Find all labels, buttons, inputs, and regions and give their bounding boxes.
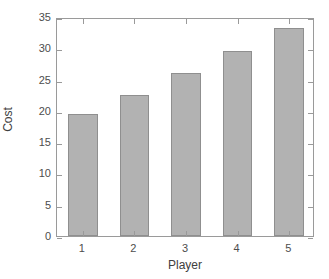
y-tick-mark (57, 175, 62, 176)
x-tick-label: 5 (285, 243, 291, 254)
x-tick-label: 4 (234, 243, 240, 254)
y-tick-mark-right (308, 238, 313, 239)
y-axis-title: Cost (2, 90, 15, 150)
x-axis-tick-labels: 12345 (56, 243, 314, 257)
y-tick-mark-right (308, 82, 313, 83)
y-tick-mark-right (308, 19, 313, 20)
bar-2 (120, 95, 149, 236)
y-tick-mark (57, 50, 62, 51)
y-axis-tick-labels: 05101520253035 (24, 18, 51, 237)
y-tick-mark (57, 207, 62, 208)
y-tick-mark-right (308, 113, 313, 114)
x-tick-mark (186, 231, 187, 236)
y-tick-label: 10 (39, 168, 51, 179)
y-tick-label: 30 (39, 43, 51, 54)
x-tick-mark (134, 231, 135, 236)
y-tick-label: 5 (45, 200, 51, 211)
y-tick-mark (57, 82, 62, 83)
y-tick-mark-right (308, 50, 313, 51)
y-tick-mark (57, 19, 62, 20)
x-tick-mark-top (238, 19, 239, 24)
bar-3 (171, 73, 200, 236)
x-tick-mark-top (134, 19, 135, 24)
plot-area (57, 19, 313, 236)
y-tick-mark (57, 113, 62, 114)
bar-1 (68, 114, 97, 236)
x-tick-mark-top (289, 19, 290, 24)
y-tick-label: 0 (45, 231, 51, 242)
x-tick-label: 3 (182, 243, 188, 254)
y-tick-label: 15 (39, 137, 51, 148)
x-tick-label: 2 (130, 243, 136, 254)
x-tick-mark (289, 231, 290, 236)
y-tick-mark (57, 238, 62, 239)
y-tick-mark (57, 144, 62, 145)
y-tick-mark-right (308, 207, 313, 208)
y-tick-mark-right (308, 144, 313, 145)
y-tick-label: 35 (39, 12, 51, 23)
figure-canvas: 05101520253035 12345 Player Cost (0, 0, 329, 279)
x-tick-mark (83, 231, 84, 236)
y-tick-mark-right (308, 175, 313, 176)
x-tick-mark (238, 231, 239, 236)
y-tick-label: 25 (39, 75, 51, 86)
bar-4 (223, 51, 252, 236)
plot-box (56, 18, 314, 237)
x-axis-title: Player (56, 259, 314, 272)
y-tick-label: 20 (39, 106, 51, 117)
x-tick-mark-top (83, 19, 84, 24)
bar-5 (274, 28, 303, 236)
x-tick-label: 1 (79, 243, 85, 254)
x-tick-mark-top (186, 19, 187, 24)
